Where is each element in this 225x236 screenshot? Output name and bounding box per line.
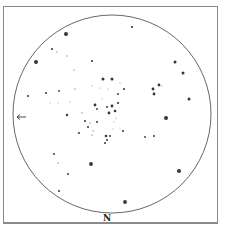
star bbox=[81, 112, 82, 113]
star bbox=[106, 139, 108, 141]
star bbox=[102, 78, 105, 81]
star bbox=[66, 55, 67, 56]
star bbox=[101, 98, 102, 99]
star bbox=[153, 93, 156, 96]
star bbox=[57, 162, 58, 163]
star bbox=[117, 102, 119, 104]
star bbox=[78, 132, 80, 134]
star bbox=[89, 122, 90, 123]
star bbox=[115, 117, 116, 118]
star bbox=[113, 129, 114, 130]
star bbox=[66, 114, 68, 116]
star bbox=[123, 88, 125, 90]
star bbox=[104, 142, 106, 144]
star bbox=[94, 104, 97, 107]
star bbox=[58, 190, 60, 192]
star bbox=[117, 93, 119, 95]
star bbox=[109, 135, 111, 137]
star bbox=[158, 84, 161, 87]
star bbox=[27, 95, 29, 97]
star bbox=[70, 102, 71, 103]
star bbox=[91, 134, 92, 135]
star bbox=[84, 120, 86, 122]
north-label: N bbox=[100, 213, 114, 223]
star bbox=[153, 135, 155, 137]
arrow-left-icon bbox=[17, 115, 26, 120]
star bbox=[174, 61, 177, 64]
star bbox=[96, 121, 98, 123]
star bbox=[34, 60, 38, 64]
star bbox=[105, 135, 108, 138]
star bbox=[58, 90, 60, 92]
star bbox=[114, 122, 115, 123]
star bbox=[177, 169, 181, 173]
star bbox=[92, 130, 93, 131]
star bbox=[67, 173, 69, 175]
horizon-circle bbox=[13, 15, 211, 213]
star bbox=[91, 60, 93, 62]
star bbox=[87, 126, 89, 128]
star bbox=[188, 98, 191, 101]
star bbox=[123, 200, 127, 204]
star bbox=[119, 82, 120, 83]
star bbox=[111, 78, 114, 81]
star bbox=[58, 103, 59, 104]
star bbox=[108, 89, 109, 90]
star bbox=[120, 128, 121, 129]
star bbox=[182, 72, 185, 75]
star bbox=[100, 88, 101, 89]
star bbox=[56, 51, 57, 52]
star bbox=[45, 92, 47, 94]
star bbox=[106, 106, 108, 108]
star bbox=[91, 85, 92, 86]
star bbox=[114, 110, 117, 113]
star bbox=[50, 103, 51, 104]
star bbox=[74, 88, 75, 89]
star bbox=[53, 153, 55, 155]
star bbox=[73, 69, 74, 70]
star bbox=[164, 116, 168, 120]
star bbox=[131, 26, 133, 28]
star bbox=[111, 105, 114, 108]
star bbox=[161, 85, 162, 86]
star bbox=[152, 88, 155, 91]
star bbox=[64, 32, 68, 36]
star-field bbox=[27, 26, 191, 204]
star bbox=[108, 112, 111, 115]
star bbox=[96, 108, 98, 110]
star bbox=[122, 130, 124, 132]
star bbox=[144, 136, 146, 138]
star bbox=[51, 48, 53, 50]
star bbox=[89, 162, 93, 166]
star-chart bbox=[0, 0, 225, 236]
